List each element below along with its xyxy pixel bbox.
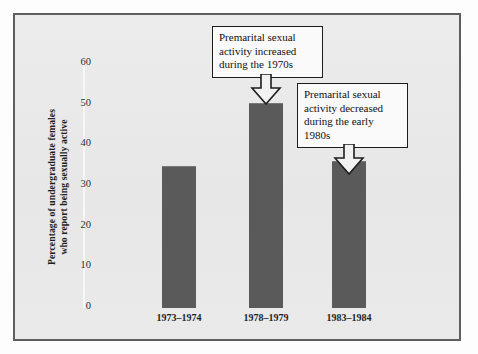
annotation-decrease-line3: during the early [304, 115, 401, 129]
annotation-increase-line3: during the 1970s [219, 58, 316, 72]
bar-1983-1984[interactable] [332, 161, 366, 308]
annotation-increase-line2: activity increased [219, 45, 316, 59]
x-axis-label-1983-1984: 1983–1984 [309, 312, 389, 323]
y-tick-label-10: 10 [61, 260, 91, 271]
annotation-increase-line1: Premarital sexual [219, 31, 316, 45]
chart-frame: Percentage of undergraduate females who … [13, 13, 461, 341]
y-tick-label-20: 20 [61, 220, 91, 231]
y-tick-label-40: 40 [61, 138, 91, 149]
y-tick-label-60: 60 [61, 57, 91, 68]
chart-page: Percentage of undergraduate females who … [0, 0, 478, 354]
annotation-decrease-line2: activity decreased [304, 102, 401, 116]
annotation-decrease-line1: Premarital sexual [304, 88, 401, 102]
plot-area: Percentage of undergraduate females who … [15, 15, 463, 343]
annotation-increase-arrow-icon [250, 74, 282, 105]
bar-1973-1974[interactable] [162, 166, 196, 308]
annotation-decrease-line4: 1980s [304, 129, 401, 143]
y-axis-title-line1: Percentage of undergraduate females [46, 72, 58, 302]
y-tick-label-0: 0 [61, 301, 91, 312]
bar-1978-1979[interactable] [249, 103, 283, 308]
y-tick-label-30: 30 [61, 179, 91, 190]
x-axis-label-1978-1979: 1978–1979 [226, 312, 306, 323]
annotation-decrease-arrow-icon [333, 144, 365, 175]
x-axis-label-1973-1974: 1973–1974 [139, 312, 219, 323]
annotation-callout-increase: Premarital sexual activity increased dur… [212, 26, 323, 78]
annotation-callout-decrease: Premarital sexual activity decreased dur… [297, 83, 408, 148]
y-tick-label-50: 50 [61, 98, 91, 109]
